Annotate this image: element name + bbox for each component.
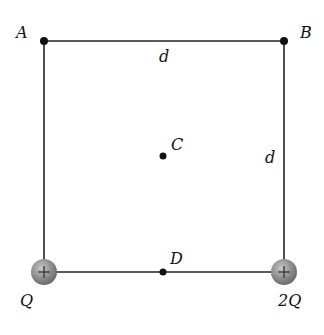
- label-c: C: [171, 135, 183, 154]
- point-a: [40, 37, 48, 45]
- charge-2q: [271, 259, 297, 285]
- point-b: [280, 37, 288, 45]
- charge-q: [31, 259, 57, 285]
- label-right-d: d: [265, 148, 275, 167]
- label-2q: 2Q: [277, 291, 301, 310]
- label-b: B: [299, 23, 312, 42]
- label-a: A: [14, 23, 28, 42]
- square-charge-diagram: A B d C d D Q 2Q: [0, 0, 324, 335]
- label-d: D: [169, 249, 183, 268]
- label-q: Q: [20, 291, 33, 310]
- point-d: [160, 269, 167, 276]
- label-top-d: d: [159, 47, 169, 66]
- point-c: [160, 153, 167, 160]
